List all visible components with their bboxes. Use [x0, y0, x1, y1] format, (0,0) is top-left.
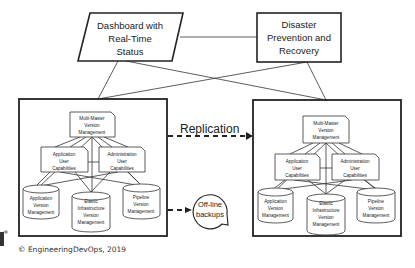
- svg-text:Capabilities: Capabilities: [285, 173, 309, 178]
- disaster-line-3: Recovery: [279, 45, 319, 56]
- svg-text:Management: Management: [313, 222, 341, 227]
- svg-text:Infrastructure: Infrastructure: [312, 208, 340, 213]
- offline-backups: Off-line backups: [168, 195, 228, 229]
- arrowhead-icon: [185, 207, 192, 213]
- right-multi-master-node: Multi-Master Version Management: [303, 116, 349, 143]
- dashboard-node: Dashboard with Real-Time Status: [78, 13, 183, 61]
- svg-text:Infrastructure: Infrastructure: [77, 206, 105, 211]
- svg-text:Elastic: Elastic: [319, 201, 333, 206]
- svg-text:Administration: Administration: [107, 152, 137, 157]
- left-admin-user-node: Administration User Capabilities: [99, 147, 145, 172]
- right-panel: Multi-Master Version Management Applicat…: [253, 100, 401, 236]
- svg-text:Management: Management: [79, 130, 107, 135]
- dashboard-line-3: Status: [117, 46, 144, 57]
- svg-text:Management: Management: [313, 135, 341, 140]
- svg-text:Capabilities: Capabilities: [343, 173, 367, 178]
- svg-text:Administration: Administration: [340, 159, 370, 164]
- svg-text:Version: Version: [318, 215, 334, 220]
- svg-text:backups: backups: [196, 210, 224, 219]
- svg-text:Version: Version: [83, 213, 99, 218]
- disaster-recovery-node: Disaster Prevention and Recovery: [257, 13, 341, 62]
- arrowhead-icon: [246, 132, 253, 140]
- svg-text:Management: Management: [78, 220, 106, 225]
- disaster-line-2: Prevention and: [267, 32, 331, 43]
- svg-text:User: User: [350, 166, 360, 171]
- svg-text:Version: Version: [84, 123, 100, 128]
- svg-text:Management: Management: [28, 210, 56, 215]
- svg-text:Elastic: Elastic: [84, 199, 98, 204]
- dashboard-line-2: Real-Time: [108, 33, 151, 44]
- svg-text:Capabilities: Capabilities: [52, 166, 76, 171]
- svg-text:User: User: [292, 166, 302, 171]
- svg-text:Management: Management: [363, 213, 391, 218]
- replication-arrow: Replication: [168, 122, 253, 140]
- disaster-line-1: Disaster: [282, 19, 317, 30]
- svg-text:Off-line: Off-line: [198, 200, 222, 209]
- left-app-version-db: Application Version Management: [23, 185, 59, 219]
- copyright-text: © EngineeringDevOps, 2019: [18, 245, 126, 254]
- svg-text:Multi-Master: Multi-Master: [313, 121, 339, 126]
- svg-text:Version: Version: [33, 203, 49, 208]
- left-multi-master-node: Multi-Master Version Management: [70, 112, 115, 137]
- right-app-user-node: Application User Capabilities: [275, 154, 320, 180]
- dashboard-line-1: Dashboard with: [97, 20, 163, 31]
- svg-text:Application: Application: [264, 199, 287, 204]
- svg-text:Application: Application: [53, 152, 76, 157]
- right-pipeline-db: Pipeline Version Management: [357, 188, 395, 223]
- left-elastic-infra-db: Elastic Infrastructure Version Managemen…: [72, 192, 110, 232]
- svg-text:Multi-Master: Multi-Master: [79, 116, 105, 121]
- diagram-canvas: Dashboard with Real-Time Status Disaster…: [0, 0, 415, 268]
- left-panel: Multi-Master Version Management Applicat…: [19, 99, 167, 236]
- svg-text:Version: Version: [318, 128, 334, 133]
- svg-text:Version: Version: [133, 202, 149, 207]
- svg-text:Pipeline: Pipeline: [368, 199, 385, 204]
- svg-text:User: User: [117, 159, 127, 164]
- svg-text:Application: Application: [286, 159, 309, 164]
- svg-text:Version: Version: [268, 206, 284, 211]
- replication-label: Replication: [180, 122, 239, 136]
- right-admin-user-node: Administration User Capabilities: [332, 154, 379, 180]
- left-pipeline-db: Pipeline Version Management: [123, 184, 160, 219]
- logo-icon: [0, 230, 8, 246]
- svg-text:User: User: [59, 159, 69, 164]
- svg-text:Management: Management: [262, 213, 290, 218]
- left-app-user-node: Application User Capabilities: [41, 147, 88, 172]
- svg-text:Management: Management: [128, 209, 156, 214]
- svg-text:Application: Application: [30, 196, 53, 201]
- right-app-version-db: Application Version Management: [258, 188, 293, 223]
- right-elastic-infra-db: Elastic Infrastructure Version Managemen…: [307, 194, 345, 235]
- svg-text:Version: Version: [368, 206, 384, 211]
- svg-text:Capabilities: Capabilities: [110, 166, 134, 171]
- svg-text:Pipeline: Pipeline: [133, 195, 150, 200]
